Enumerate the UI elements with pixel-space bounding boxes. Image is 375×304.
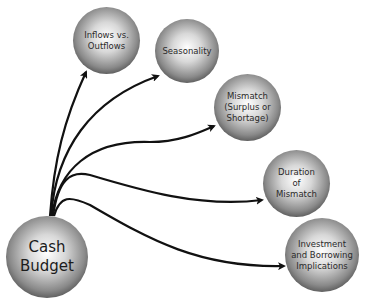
arrow-to-mismatch: [52, 126, 214, 216]
arrow-to-seasonality: [51, 76, 158, 216]
arrow-to-investment: [54, 199, 284, 266]
root-label: Cash Budget: [20, 238, 74, 276]
node-label: Investment and Borrowing Implications: [291, 239, 353, 272]
node-label: Mismatch (Surplus or Shortage): [224, 91, 271, 124]
node-label: Duration of Mismatch: [276, 167, 317, 200]
node-label: Inflows vs. Outflows: [84, 30, 129, 52]
node-cash-budget: Cash Budget: [6, 216, 88, 298]
node-duration-of-mismatch: Duration of Mismatch: [263, 150, 330, 217]
node-seasonality: Seasonality: [155, 19, 219, 83]
node-label: Seasonality: [162, 46, 211, 57]
node-inflows-vs-outflows: Inflows vs. Outflows: [73, 7, 140, 74]
node-investment-borrowing: Investment and Borrowing Implications: [285, 218, 359, 292]
node-mismatch: Mismatch (Surplus or Shortage): [214, 74, 281, 141]
arrow-to-inflows: [50, 72, 86, 216]
arrow-to-duration: [53, 174, 262, 216]
